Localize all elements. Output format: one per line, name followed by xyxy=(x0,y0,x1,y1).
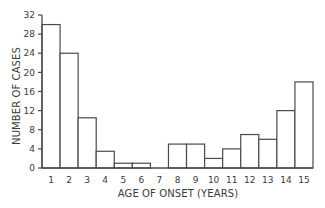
y-axis: 048121620242832 xyxy=(24,10,42,173)
bar-age-11 xyxy=(223,149,241,168)
bar-age-2 xyxy=(60,53,78,168)
y-tick-label: 12 xyxy=(24,106,35,116)
x-tick-label: 7 xyxy=(157,175,163,185)
bar-age-3 xyxy=(78,118,96,168)
bar-age-9 xyxy=(187,144,205,168)
y-axis-title: NUMBER OF CASES xyxy=(11,47,22,145)
y-tick-label: 20 xyxy=(24,68,36,78)
x-tick-label: 12 xyxy=(244,175,255,185)
x-tick-label: 5 xyxy=(120,175,126,185)
y-tick-label: 16 xyxy=(24,87,36,97)
y-tick-label: 28 xyxy=(24,29,36,39)
x-tick-label: 11 xyxy=(226,175,237,185)
bar-age-10 xyxy=(205,158,223,168)
bar-age-6 xyxy=(132,163,150,168)
bar-age-5 xyxy=(114,163,132,168)
x-tick-label: 2 xyxy=(66,175,72,185)
x-tick-label: 3 xyxy=(84,175,90,185)
x-tick-label: 1 xyxy=(48,175,54,185)
x-tick-label: 14 xyxy=(280,175,292,185)
y-tick-label: 32 xyxy=(24,10,35,20)
x-tick-label: 10 xyxy=(208,175,220,185)
x-tick-label: 9 xyxy=(193,175,199,185)
x-axis-title: AGE OF ONSET (YEARS) xyxy=(118,188,238,199)
x-tick-label: 8 xyxy=(175,175,181,185)
x-tick-label: 6 xyxy=(139,175,145,185)
y-tick-label: 0 xyxy=(29,163,35,173)
x-tick-label: 13 xyxy=(262,175,273,185)
bar-age-12 xyxy=(241,135,259,168)
x-axis: 123456789101112131415 xyxy=(42,168,313,185)
y-tick-label: 4 xyxy=(29,144,35,154)
bar-age-4 xyxy=(96,151,114,168)
bar-age-15 xyxy=(295,82,313,168)
bar-age-13 xyxy=(259,139,277,168)
x-tick-label: 15 xyxy=(298,175,309,185)
bar-age-8 xyxy=(168,144,186,168)
x-tick-label: 4 xyxy=(102,175,108,185)
y-tick-label: 8 xyxy=(29,125,35,135)
bar-age-1 xyxy=(42,25,60,168)
histogram-chart: 048121620242832 123456789101112131415 NU… xyxy=(0,0,325,208)
y-tick-label: 24 xyxy=(24,48,36,58)
bars-group xyxy=(42,25,313,168)
bar-age-14 xyxy=(277,111,295,168)
